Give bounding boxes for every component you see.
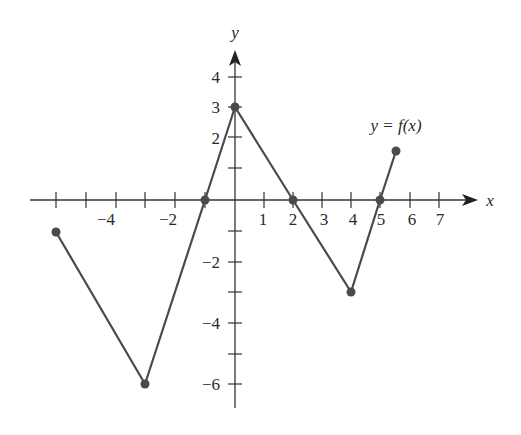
x-tick-label: 2 — [289, 210, 298, 229]
x-tick-label: 4 — [349, 210, 358, 229]
y-tick-label: −4 — [202, 314, 221, 333]
data-points — [52, 103, 401, 389]
y-tick-label: 3 — [212, 98, 221, 117]
curve-label: y = f(x) — [368, 116, 421, 135]
data-point — [52, 228, 61, 237]
y-tick-labels: 4 3 2 −2 −4 −6 — [202, 68, 221, 394]
data-point — [347, 288, 356, 297]
data-point — [141, 380, 150, 389]
data-point — [376, 196, 385, 205]
data-point — [289, 196, 298, 205]
x-tick-label: 5 — [377, 210, 386, 229]
axes — [30, 60, 470, 408]
function-graph: −4 −2 1 2 3 4 5 6 7 4 3 2 −2 −4 −6 y x y… — [0, 0, 521, 435]
y-tick-label: 4 — [212, 68, 221, 87]
y-tick-label: −6 — [202, 375, 220, 394]
y-tick-label: −2 — [202, 253, 220, 272]
data-point — [201, 196, 210, 205]
function-line — [56, 107, 396, 384]
x-tick-label: 1 — [259, 210, 268, 229]
data-point — [231, 103, 240, 112]
x-tick-labels: −4 −2 1 2 3 4 5 6 7 — [97, 210, 445, 229]
x-tick-label: 7 — [436, 210, 445, 229]
x-tick-label: −4 — [97, 210, 116, 229]
y-tick-label: 2 — [212, 129, 221, 148]
x-axis-label: x — [485, 191, 494, 210]
x-tick-label: −2 — [159, 210, 177, 229]
x-tick-label: 6 — [408, 210, 417, 229]
y-axis-label: y — [229, 23, 239, 42]
x-tick-label: 3 — [320, 210, 329, 229]
data-point — [392, 147, 401, 156]
